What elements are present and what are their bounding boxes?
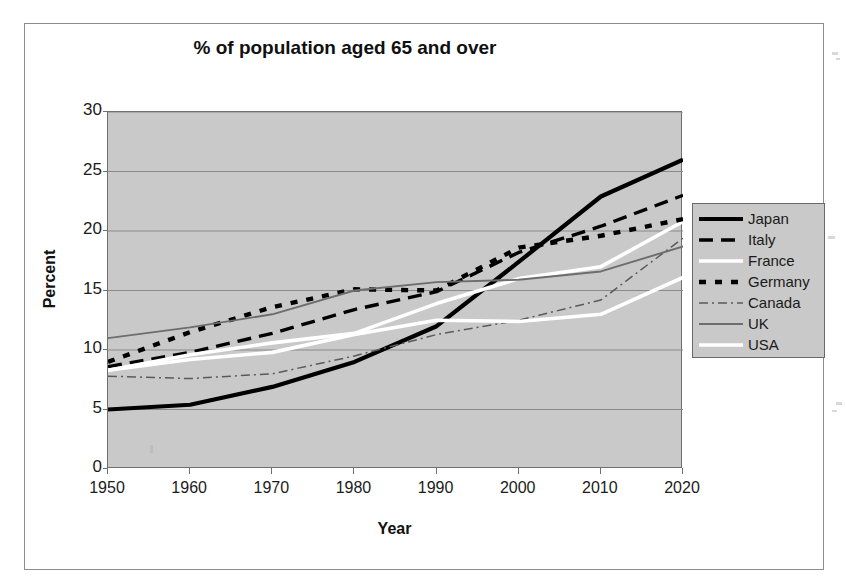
x-tick-mark <box>436 468 437 474</box>
legend-label: Japan <box>748 210 789 227</box>
legend-swatch-icon <box>698 212 744 226</box>
scan-artifact <box>832 410 837 412</box>
x-tick-mark <box>107 468 108 474</box>
legend-label: UK <box>748 315 769 332</box>
legend-item-italy: Italy <box>693 229 824 250</box>
x-tick-label: 1960 <box>161 479 217 497</box>
chart-screenshot: % of population aged 65 and over Percent… <box>0 0 846 587</box>
scan-artifact <box>150 445 153 453</box>
legend-swatch-icon <box>698 254 744 268</box>
scan-artifact <box>832 52 838 55</box>
x-tick-label: 1980 <box>325 479 381 497</box>
legend-label: Germany <box>748 273 810 290</box>
x-tick-label: 2010 <box>572 479 628 497</box>
legend-swatch-icon <box>698 275 744 289</box>
x-tick-label: 2020 <box>654 479 710 497</box>
legend-swatch-icon <box>698 296 744 310</box>
chart-legend: JapanItalyFranceGermanyCanadaUKUSA <box>692 203 825 358</box>
legend-swatch-icon <box>698 338 744 352</box>
legend-swatch-icon <box>698 317 744 331</box>
scan-artifact <box>836 58 840 60</box>
legend-label: Canada <box>748 294 801 311</box>
legend-item-uk: UK <box>693 313 824 334</box>
x-tick-label: 1970 <box>243 479 299 497</box>
x-tick-mark <box>600 468 601 474</box>
legend-item-germany: Germany <box>693 271 824 292</box>
x-tick-mark <box>271 468 272 474</box>
x-tick-mark <box>189 468 190 474</box>
x-tick-mark <box>518 468 519 474</box>
legend-label: USA <box>748 336 779 353</box>
legend-label: Italy <box>748 231 776 248</box>
legend-swatch-icon <box>698 233 744 247</box>
x-tick-label: 1950 <box>79 479 135 497</box>
legend-label: France <box>748 252 795 269</box>
legend-item-france: France <box>693 250 824 271</box>
x-tick-mark <box>682 468 683 474</box>
x-axis-title: Year <box>107 520 682 538</box>
scan-artifact <box>828 236 835 239</box>
legend-item-usa: USA <box>693 334 824 355</box>
x-tick-label: 1990 <box>408 479 464 497</box>
scan-artifact <box>836 402 842 405</box>
x-tick-mark <box>353 468 354 474</box>
legend-item-japan: Japan <box>693 208 824 229</box>
x-tick-label: 2000 <box>490 479 546 497</box>
legend-item-canada: Canada <box>693 292 824 313</box>
